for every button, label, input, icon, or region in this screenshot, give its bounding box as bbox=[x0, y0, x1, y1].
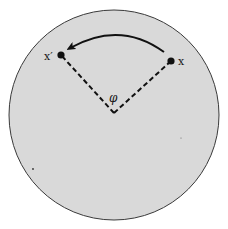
disk bbox=[9, 10, 219, 220]
point-x bbox=[167, 57, 174, 64]
label-x: x bbox=[178, 55, 185, 68]
speck bbox=[32, 168, 34, 170]
label-x-prime: x′ bbox=[44, 50, 53, 63]
speck bbox=[180, 137, 181, 138]
rotation-diagram: x′ x φ bbox=[0, 0, 228, 229]
point-x-prime bbox=[57, 51, 64, 58]
label-angle-phi: φ bbox=[109, 91, 118, 105]
